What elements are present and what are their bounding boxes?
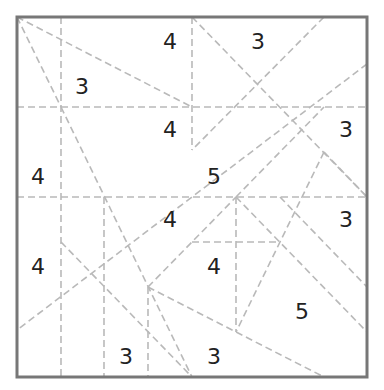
clue-number: 3 xyxy=(106,342,146,372)
clue-number: 4 xyxy=(18,162,58,192)
clue-number: 4 xyxy=(150,27,190,57)
clue-number: 3 xyxy=(238,27,278,57)
dashed-line xyxy=(61,107,192,377)
clue-number: 3 xyxy=(326,205,366,235)
clue-number: 3 xyxy=(326,115,366,145)
clue-number: 3 xyxy=(194,342,234,372)
puzzle-grid xyxy=(0,0,384,390)
dashed-line xyxy=(236,107,324,197)
dashed-line xyxy=(17,17,61,107)
clue-number: 3 xyxy=(62,72,102,102)
clue-number: 4 xyxy=(150,205,190,235)
clue-number: 4 xyxy=(150,115,190,145)
clue-number: 4 xyxy=(194,252,234,282)
clue-number: 5 xyxy=(282,297,322,327)
puzzle-board: 43343454344533 xyxy=(0,0,384,390)
clue-number: 5 xyxy=(194,162,234,192)
clue-number: 4 xyxy=(18,252,58,282)
